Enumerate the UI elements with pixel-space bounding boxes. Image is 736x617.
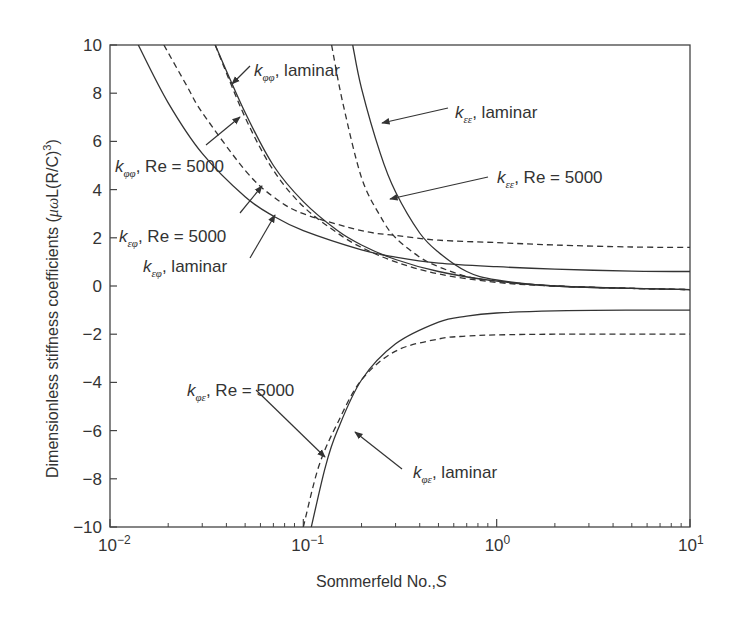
x-tick-label: 101 (678, 533, 704, 555)
plot-frame (110, 45, 690, 527)
label-kepsphi-laminar: kεφ, laminar (143, 257, 227, 279)
annotation-labels: kφφ, laminar kφφ, Re = 5000 kεφ, Re = 50… (115, 61, 603, 485)
y-tick-label: −4 (83, 373, 102, 392)
y-tick-label: −8 (83, 470, 102, 489)
y-tick-label: 2 (93, 229, 102, 248)
x-tick-label: 10−2 (98, 533, 131, 555)
series-line (164, 45, 690, 247)
chart-svg: 1086420−2−4−6−8−10 10−210−1100101 kφφ, l… (0, 0, 736, 617)
x-axis-ticks: 10−210−1100101 (98, 519, 704, 555)
curves (138, 45, 690, 527)
y-tick-label: 8 (93, 84, 102, 103)
x-tick-label: 10−1 (291, 533, 324, 555)
y-tick-label: 4 (93, 181, 102, 200)
series-line (215, 45, 690, 290)
y-tick-label: −6 (83, 422, 102, 441)
y-tick-label: 0 (93, 277, 102, 296)
y-tick-label: 6 (93, 132, 102, 151)
label-kepsphi-re5000: kεφ, Re = 5000 (119, 227, 226, 249)
label-kphieps-laminar: kφε, laminar (413, 463, 497, 485)
y-tick-label: −10 (73, 518, 102, 537)
x-tick-label: 100 (485, 533, 511, 555)
series-line (215, 45, 690, 290)
y-tick-label: 10 (83, 36, 102, 55)
y-tick-label: −2 (83, 325, 102, 344)
x-axis-title: Sommerfeld No.,S (316, 573, 447, 590)
y-axis-title: Dimensionless stiffness coefficients (μω… (41, 139, 62, 478)
label-kphiphi-laminar: kφφ, laminar (254, 61, 340, 83)
series-line (303, 334, 690, 527)
label-kphiphi-re5000: kφφ, Re = 5000 (115, 157, 224, 179)
label-kphieps-re5000: kφε, Re = 5000 (187, 381, 294, 403)
label-kepseps-laminar: kεε, laminar (455, 103, 538, 125)
label-kepseps-re5000: kεε, Re = 5000 (497, 168, 603, 190)
series-line (311, 310, 690, 527)
